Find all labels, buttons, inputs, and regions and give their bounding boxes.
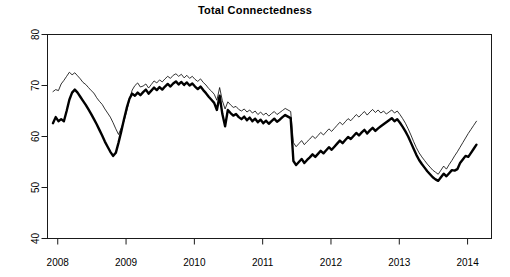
y-axis-ticks: 4050607080 [30,29,48,245]
x-tick-label: 2012 [320,257,343,268]
y-tick-label: 80 [30,29,41,41]
x-tick-label: 2014 [456,257,479,268]
total-connectedness-line-chart: 4050607080 2008200920102011201220132014 [0,0,510,277]
data-series-group [53,72,477,181]
y-tick-label: 50 [30,182,41,194]
x-tick-label: 2013 [388,257,411,268]
x-tick-label: 2008 [47,257,70,268]
y-tick-label: 60 [30,131,41,143]
x-tick-label: 2010 [183,257,206,268]
chart-container: Total Connectedness 4050607080 200820092… [0,0,510,277]
x-axis-ticks: 2008200920102011201220132014 [47,239,480,268]
y-tick-label: 40 [30,233,41,245]
y-tick-label: 70 [30,80,41,92]
x-tick-label: 2009 [115,257,138,268]
plot-frame [48,35,492,239]
x-tick-label: 2011 [252,257,274,268]
